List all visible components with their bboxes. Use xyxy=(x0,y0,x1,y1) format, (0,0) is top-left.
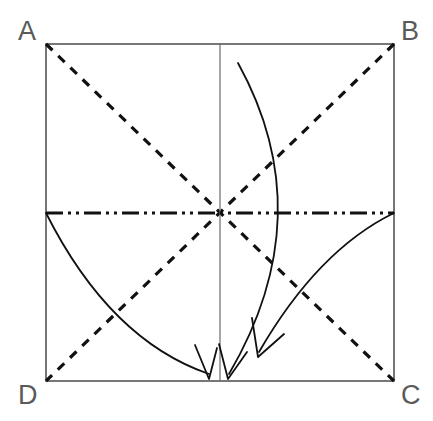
vertex-label-b: B xyxy=(401,16,419,46)
vertex-label-a: A xyxy=(18,16,36,46)
geometry-diagram-canvas: A B C D xyxy=(0,0,433,421)
vertex-label-c: C xyxy=(401,380,421,410)
diagram-svg: A B C D xyxy=(0,0,433,421)
vertex-label-d: D xyxy=(18,380,38,410)
